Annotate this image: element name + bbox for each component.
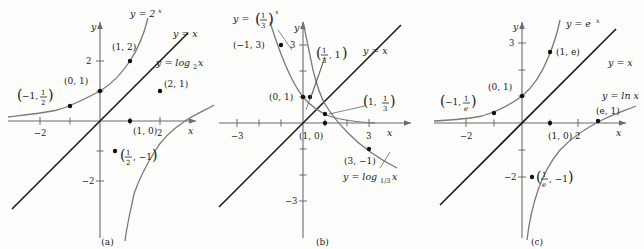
svg-text:y =: y =: [232, 13, 249, 24]
curve-label-exponential: y = e x: [565, 17, 600, 30]
x-tick-label-2: 2: [575, 131, 580, 141]
svg-text:3: 3: [383, 105, 387, 113]
svg-text:e: e: [542, 181, 546, 189]
curve-exponential: [8, 18, 148, 117]
math-figure: x y −2 2 2 −2 y = 2 x y = x y = log 2 x …: [0, 0, 644, 249]
svg-text:, 1: , 1: [329, 50, 340, 60]
svg-text:1: 1: [126, 149, 130, 157]
svg-text:3: 3: [322, 57, 326, 65]
curve-label-logarithm: y = ln x: [601, 90, 640, 101]
point-marker: [128, 59, 132, 63]
curve-label-identity: y = x: [362, 45, 388, 56]
svg-text:): ): [390, 93, 395, 109]
point-marker: [596, 119, 600, 123]
svg-text:): ): [342, 45, 347, 61]
point-label: ( 1 2 , −1 ): [120, 147, 157, 167]
x-axis-label: x: [188, 125, 194, 136]
y-tick-label--3: −3: [285, 196, 298, 206]
point-marker: [279, 43, 283, 47]
point-label: ( 1, 1 3 ): [363, 93, 395, 113]
panel-a: x y −2 2 2 −2 y = 2 x y = x y = log 2 x …: [0, 0, 215, 249]
point-marker: [128, 119, 132, 123]
svg-text:x: x: [275, 8, 279, 16]
svg-text:x: x: [392, 171, 398, 182]
point-marker: [158, 89, 162, 93]
x-tick-label--3: −3: [231, 131, 244, 141]
x-tick-label-2: 2: [157, 128, 162, 138]
curve-label-exponential: y = ( 1 3 ) x: [232, 8, 279, 30]
panel-c-plot: x y −2 2 3 −2 y = e x y = x y = ln x (1,…: [430, 0, 644, 249]
svg-text:2: 2: [193, 63, 197, 71]
x-axis-label: x: [616, 127, 622, 138]
y-axis-arrow: [97, 22, 103, 29]
svg-text:y = 2: y = 2: [129, 8, 155, 19]
point-label: (−1, 3): [233, 40, 265, 50]
curve-label-exponential: y = 2 x: [129, 7, 162, 20]
point-marker: [113, 149, 117, 153]
curve-label-logarithm: y = log 2 x: [155, 57, 204, 71]
svg-text:, −1: , −1: [549, 174, 568, 184]
svg-text:, −1: , −1: [133, 152, 152, 162]
svg-text:): ): [568, 169, 573, 185]
svg-text:(: (: [120, 147, 125, 163]
svg-text:3: 3: [261, 22, 265, 30]
point-label: (1, e): [556, 47, 580, 57]
point-marker: [68, 104, 72, 108]
y-axis-label: y: [90, 21, 97, 32]
svg-text:1: 1: [322, 47, 326, 55]
y-tick-label--2: −2: [504, 172, 517, 182]
panel-caption-b: (b): [215, 237, 430, 247]
x-tick-label--2: −2: [460, 131, 473, 141]
x-tick-label-3: 3: [366, 131, 371, 141]
x-axis-arrow: [189, 118, 196, 124]
y-tick-label-3: 3: [509, 38, 514, 48]
axes-group-c: [434, 22, 626, 238]
svg-text:1: 1: [383, 95, 387, 103]
x-axis-arrow: [619, 120, 626, 126]
panel-caption-a: (a): [0, 237, 215, 247]
x-axis-arrow: [404, 120, 411, 126]
y-tick-label--2: −2: [82, 176, 95, 186]
y-axis-label: y: [512, 21, 519, 32]
point-label: (3, −1): [344, 156, 376, 166]
svg-text:1: 1: [41, 89, 45, 97]
point-label: (1, 2): [112, 42, 136, 52]
svg-text:y = log: y = log: [155, 57, 190, 68]
panel-b: x y −3 3 3 −3 y = ( 1 3 ) x y = x y = lo…: [215, 0, 430, 249]
svg-text:e: e: [464, 105, 468, 113]
svg-text:y = log: y = log: [342, 171, 377, 182]
svg-text:2: 2: [41, 99, 45, 107]
point-marker: [323, 112, 327, 116]
svg-text:−1,: −1,: [22, 91, 38, 101]
point-marker: [530, 175, 534, 179]
point-marker: [548, 50, 552, 54]
x-tick-label--2: −2: [34, 128, 47, 138]
y-axis-label: y: [293, 22, 300, 33]
point-label: ( −1, 1 e ): [440, 93, 476, 113]
point-label: ( −1, 1 2 ): [17, 87, 53, 107]
svg-text:): ): [471, 93, 476, 109]
svg-text:1/3: 1/3: [380, 177, 390, 185]
svg-text:x: x: [596, 17, 600, 25]
point-marker: [98, 89, 102, 93]
y-axis-arrow: [519, 22, 525, 29]
point-label: (0, 1): [488, 82, 512, 92]
point-label: (e, 1): [596, 106, 620, 116]
svg-text:1: 1: [261, 12, 265, 20]
point-marker: [323, 121, 327, 125]
svg-text:x: x: [158, 7, 162, 15]
svg-text:(: (: [536, 169, 541, 185]
point-label: (0, 1): [64, 76, 88, 86]
svg-text:1: 1: [542, 171, 546, 179]
svg-text:): ): [152, 147, 157, 163]
point-marker: [548, 121, 552, 125]
point-marker: [492, 111, 496, 115]
point-label: ( 1 e , −1 ): [536, 169, 573, 189]
svg-text:(: (: [255, 10, 261, 28]
point-label: (1, 0): [299, 131, 323, 141]
point-marker: [520, 94, 524, 98]
point-marker: [367, 147, 371, 151]
panel-c: x y −2 2 3 −2 y = e x y = x y = ln x (1,…: [430, 0, 644, 249]
point-label: (1, 0): [548, 131, 572, 141]
panel-b-plot: x y −3 3 3 −3 y = ( 1 3 ) x y = x y = lo…: [215, 0, 430, 249]
